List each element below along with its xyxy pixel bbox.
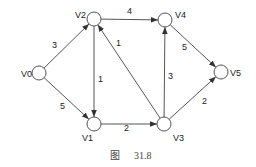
edge-v3-v2 [98,25,160,118]
edge-weight-label: 5 [60,101,65,111]
edge-v3-v4 [164,27,165,117]
node-label: V1 [82,133,93,143]
edge-v4-v5 [170,25,216,67]
node-label: V2 [75,10,86,20]
node-label: V4 [175,10,186,20]
node-label: V3 [173,133,184,143]
graph-diagram: 354121352 V0V1V2V3V4V5 图 31.8 [0,0,256,167]
node-v5 [214,65,228,79]
figure-caption: 图 31.8 [110,150,152,161]
node-label: V5 [230,68,241,78]
edge-v2-v4 [101,19,158,20]
edge-weight-label: 3 [52,40,57,50]
node-v3 [157,117,171,131]
node-v2 [87,12,101,26]
edge-weight-label: 3 [168,71,173,81]
node-v4 [158,13,172,27]
node-label: V0 [21,69,32,79]
caption-number: 31.8 [134,150,152,161]
nodes-layer: V0V1V2V3V4V5 [21,10,241,143]
edge-v3-v5 [169,77,216,120]
edge-weight-label: 2 [124,123,129,133]
edges-layer: 354121352 [44,6,216,133]
edge-weight-label: 1 [116,38,121,48]
edge-v0-v2 [44,24,89,68]
edge-v0-v1 [44,78,89,119]
caption-prefix: 图 [110,150,120,161]
edge-weight-label: 1 [98,74,103,84]
edge-weight-label: 5 [182,42,187,52]
node-v0 [32,66,46,80]
edge-weight-label: 4 [127,6,132,16]
edge-weight-label: 2 [202,96,207,106]
node-v1 [87,117,101,131]
